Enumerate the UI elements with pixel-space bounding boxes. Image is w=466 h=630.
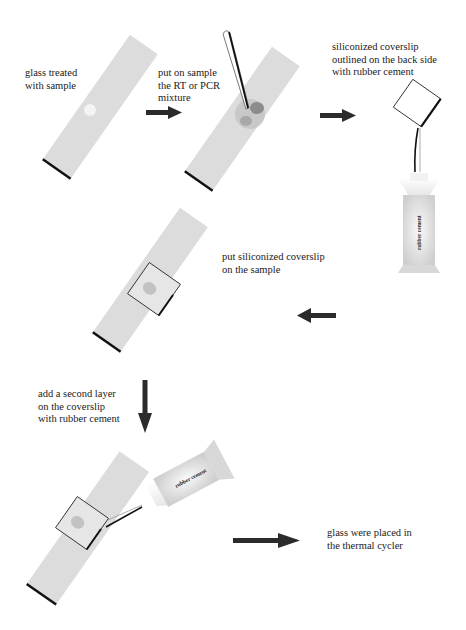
step-6-label: glass were placed in the thermal cycler — [327, 527, 412, 552]
label-line: the thermal cycler — [327, 540, 412, 553]
coverslip-icon — [393, 79, 440, 126]
sample-droplets — [235, 99, 265, 129]
pipette-icon — [223, 31, 249, 109]
label-line: glass treated — [25, 67, 77, 80]
label-line: siliconized coverslip — [332, 41, 437, 54]
arrow-right-3 — [233, 533, 300, 548]
label-line: on the sample — [222, 264, 325, 277]
label-line: with rubber cement — [332, 66, 437, 79]
label-line: the RT or PCR — [158, 80, 220, 93]
step-2-label: put on sample the RT or PCR mixture — [158, 67, 220, 105]
label-line: add a second layer — [38, 388, 120, 401]
label-line: mixture — [158, 92, 220, 105]
step-3-label: siliconized coverslip outlined on the ba… — [332, 41, 437, 79]
step-1-label: glass treated with sample — [25, 67, 77, 92]
rubber-cement-tube-2: rubber cement — [142, 440, 235, 517]
arrow-left — [297, 308, 336, 323]
label-line: glass were placed in — [327, 527, 412, 540]
step-4-label: put siliconized coverslip on the sample — [222, 251, 325, 276]
arrow-right-2 — [320, 109, 356, 122]
sample-spot — [84, 104, 96, 116]
label-line: put on sample — [158, 67, 220, 80]
label-line: on the coverslip — [38, 401, 120, 414]
tube-label-1: rubber cement — [416, 215, 422, 250]
arrow-right-1 — [146, 106, 182, 119]
step-5-label: add a second layer on the coverslip with… — [38, 388, 120, 426]
arrow-down — [138, 380, 152, 433]
label-line: with sample — [25, 80, 77, 93]
cement-strand — [415, 128, 418, 172]
label-line: with rubber cement — [38, 413, 120, 426]
label-line: put siliconized coverslip — [222, 251, 325, 264]
slide-1-glass — [43, 35, 158, 179]
label-line: outlined on the back side — [332, 54, 437, 67]
